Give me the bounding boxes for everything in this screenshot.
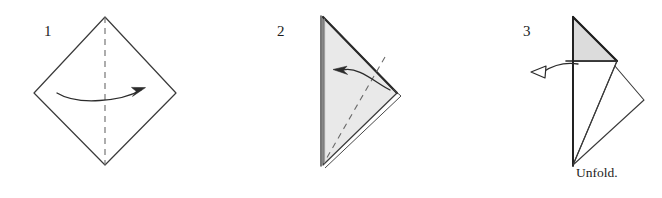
unfold-arrow-head-hollow	[531, 66, 546, 78]
origami-diagram-sheet: 1 2	[0, 0, 662, 198]
step-panel-2: 2	[230, 0, 445, 198]
step-number-3: 3	[523, 24, 531, 39]
step-1-illustration	[0, 0, 230, 198]
step-3-caption: Unfold.	[576, 166, 618, 180]
step-number-2: 2	[277, 24, 285, 39]
step-2-illustration	[230, 0, 445, 198]
step-3-illustration	[445, 0, 662, 198]
step-number-1: 1	[44, 24, 52, 39]
step-panel-3: 3 Unfold.	[445, 0, 662, 198]
paper-triangle-body	[323, 17, 397, 165]
step-panel-1: 1	[0, 0, 230, 198]
